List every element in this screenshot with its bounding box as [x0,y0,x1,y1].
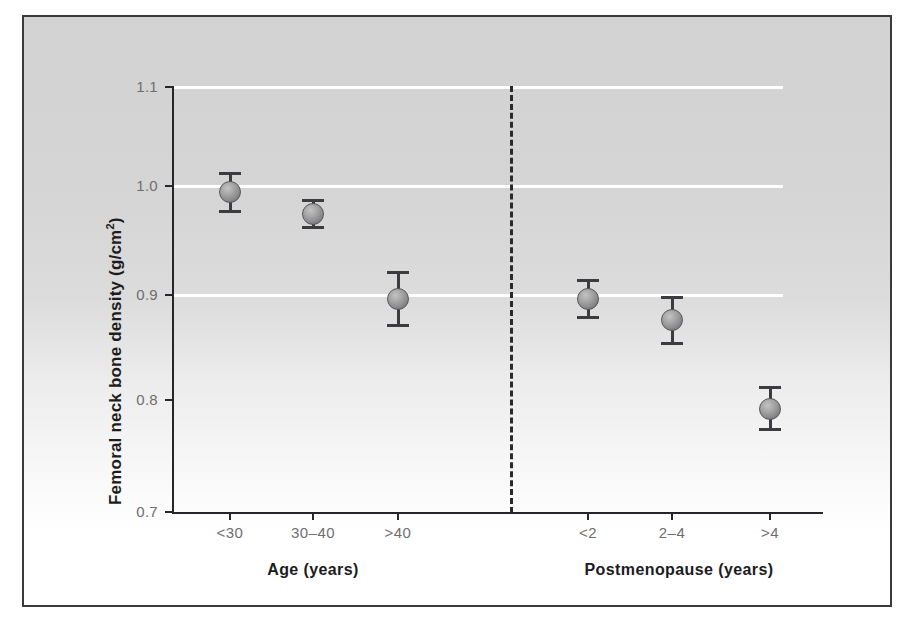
data-point [301,197,325,231]
y-axis-title-close-paren: ) [106,217,125,223]
data-point [758,384,782,433]
error-bar-cap-upper [661,296,683,299]
y-tick-label: 1.0 [118,177,158,194]
gridline-1.0 [173,185,783,188]
error-bar-cap-upper [759,386,781,389]
data-point [576,277,600,321]
gridline-0.9 [173,294,783,297]
x-tick-mark [769,512,771,520]
x-tick-mark [397,512,399,520]
data-point-marker [577,288,599,310]
group-label-age: Age (years) [183,561,443,579]
data-point [386,269,410,328]
y-tick-mark [165,86,173,88]
x-tick-mark [671,512,673,520]
x-axis-line [172,512,823,514]
error-bar-cap-lower [387,324,409,327]
error-bar-cap-upper [302,199,324,202]
error-bar-cap-lower [302,226,324,229]
y-tick-mark [165,399,173,401]
data-point [660,294,684,347]
x-tick-label: <30 [185,524,275,541]
y-tick-label: 1.1 [118,78,158,95]
y-axis-title: Femoral neck bone density (g/cm2) [104,217,126,505]
x-tick-mark [587,512,589,520]
x-tick-label: 2–4 [627,524,717,541]
x-tick-label: <2 [543,524,633,541]
group-divider [510,86,513,513]
data-point-marker [302,203,324,225]
data-point-marker [219,181,241,203]
error-bar-cap-lower [661,342,683,345]
error-bar-cap-upper [219,172,241,175]
data-point-marker [387,288,409,310]
error-bar-cap-upper [577,279,599,282]
data-point-marker [759,398,781,420]
figure: 1.1 1.0 0.9 0.8 0.7 Femoral neck bone de… [0,0,911,627]
x-tick-label: >40 [353,524,443,541]
error-bar-cap-lower [577,316,599,319]
y-tick-mark [165,294,173,296]
y-axis-title-text: Femoral neck bone density (g/cm [106,230,125,505]
x-tick-mark [229,512,231,520]
y-axis-title-superscript: 2 [104,223,116,229]
y-axis-line [172,86,174,514]
x-tick-mark [312,512,314,520]
error-bar-cap-upper [387,271,409,274]
y-tick-label: 0.7 [118,503,158,520]
group-label-postmenopause: Postmenopause (years) [549,561,809,579]
error-bar-cap-lower [759,428,781,431]
x-tick-label: >4 [725,524,815,541]
y-tick-mark [165,185,173,187]
data-point [218,170,242,214]
x-tick-label: 30–40 [268,524,358,541]
error-bar-cap-lower [219,210,241,213]
y-tick-mark [165,511,173,513]
data-point-marker [661,309,683,331]
gridline-1.1 [173,86,783,89]
